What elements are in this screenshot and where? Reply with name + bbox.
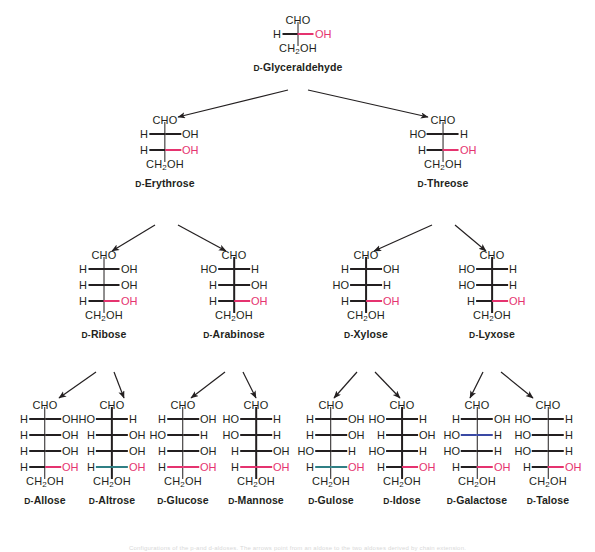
carbon-backbone: HOHHOH bbox=[418, 126, 469, 158]
carbon-backbone: HOHHOHHOHHOH bbox=[157, 411, 209, 475]
substituent-left: H bbox=[158, 443, 179, 459]
primary-alcohol-group: CH2OH bbox=[82, 309, 127, 323]
substituent-left: H bbox=[377, 427, 398, 443]
substituent-right: OH bbox=[552, 459, 582, 475]
substituent-right: OH bbox=[260, 459, 290, 475]
substituent-left: H bbox=[79, 277, 100, 293]
molecule-label-d-glyceraldehyde: D-Glyceraldehyde bbox=[254, 61, 343, 73]
carbon-backbone: HOHHOHHOHHOH bbox=[24, 411, 66, 475]
stereocenter-row: HOH bbox=[418, 142, 469, 158]
figure-caption: Configurations of the p-and d-aldoses. T… bbox=[0, 545, 595, 551]
substituent-left: HO bbox=[459, 261, 489, 277]
substituent-left: HO bbox=[201, 261, 231, 277]
stereo-prefix: D- bbox=[344, 330, 353, 340]
molecule-name-stem: Xylose bbox=[353, 328, 387, 340]
primary-alcohol-group: CH2OH bbox=[89, 475, 135, 489]
primary-alcohol-group: CH2OH bbox=[24, 475, 66, 489]
substituent-left: HO bbox=[444, 443, 474, 459]
substituent-right: OH bbox=[370, 293, 400, 309]
stereo-prefix: D- bbox=[24, 496, 33, 506]
substituent-right: H bbox=[552, 411, 573, 427]
substituent-left: H bbox=[158, 411, 179, 427]
substituent-left: H bbox=[452, 459, 473, 475]
stereocenter-row: HOH bbox=[228, 443, 284, 459]
stereocenter-row: HOH bbox=[447, 459, 507, 475]
molecule-name-stem: Glyceraldehyde bbox=[263, 61, 343, 73]
stereocenter-row: HOH bbox=[157, 443, 209, 459]
carbon-backbone: HOH bbox=[254, 26, 343, 42]
substituent-left: HO bbox=[333, 277, 363, 293]
stereo-prefix: D- bbox=[527, 496, 536, 506]
carbon-backbone: HOHHOHHOHHOH bbox=[383, 411, 421, 475]
arrow-d-threose-to-d-lyxose bbox=[455, 225, 486, 251]
primary-alcohol-group: CH2OH bbox=[228, 475, 284, 489]
molecule-d-gulose: CHOHOHHOHHOHHOHCH2OHD-Gulose bbox=[308, 399, 354, 506]
substituent-left: HO bbox=[515, 427, 545, 443]
molecule-label-d-allose: D-Allose bbox=[24, 494, 66, 506]
molecule-name-stem: Galactose bbox=[456, 494, 507, 506]
substituent-right: OH bbox=[187, 459, 217, 475]
substituent-right: OH bbox=[116, 443, 146, 459]
substituent-right: OH bbox=[496, 293, 526, 309]
stereocenter-row: HOH bbox=[447, 427, 507, 443]
molecule-name-stem: Idose bbox=[393, 494, 421, 506]
stereocenter-row: HOH bbox=[203, 277, 265, 293]
substituent-right: OH bbox=[116, 459, 146, 475]
arrow-d-xylose-to-d-idose bbox=[375, 372, 400, 398]
substituent-right: OH bbox=[335, 411, 365, 427]
stereo-prefix: D- bbox=[383, 496, 392, 506]
substituent-right: OH bbox=[447, 142, 477, 158]
molecule-label-d-lyxose: D-Lyxose bbox=[469, 328, 515, 340]
molecule-name-stem: Arabinose bbox=[213, 328, 265, 340]
substituent-right: OH bbox=[49, 443, 79, 459]
molecule-d-idose: CHOHOHHOHHOHHOHCH2OHD-Idose bbox=[383, 399, 421, 506]
stereo-prefix: D- bbox=[135, 179, 144, 189]
arrow-d-threose-to-d-xylose bbox=[374, 225, 432, 251]
stereocenter-row: HOH bbox=[203, 261, 265, 277]
stereocenter-row: HOH bbox=[527, 427, 569, 443]
molecule-label-d-arabinose: D-Arabinose bbox=[203, 328, 265, 340]
substituent-right: H bbox=[496, 277, 517, 293]
substituent-left: H bbox=[158, 459, 179, 475]
substituent-left: H bbox=[452, 411, 473, 427]
molecule-name-stem: Talose bbox=[536, 494, 569, 506]
carbon-backbone: HOHHOHHOH bbox=[203, 261, 265, 309]
substituent-left: H bbox=[87, 443, 108, 459]
molecule-d-glyceraldehyde: CHOHOHCH2OHD-Glyceraldehyde bbox=[254, 14, 343, 73]
substituent-right: OH bbox=[302, 26, 332, 42]
substituent-right: OH bbox=[406, 427, 436, 443]
stereocenter-row: HOH bbox=[135, 142, 194, 158]
substituent-left: H bbox=[523, 459, 544, 475]
primary-alcohol-group: CH2OH bbox=[135, 158, 194, 172]
molecule-d-lyxose: CHOHOHHOHHOHCH2OHD-Lyxose bbox=[469, 249, 515, 340]
primary-alcohol-group: CH2OH bbox=[447, 475, 507, 489]
stereocenter-row: HOH bbox=[89, 443, 135, 459]
substituent-left: H bbox=[231, 459, 252, 475]
substituent-right: OH bbox=[481, 459, 511, 475]
substituent-right: H bbox=[260, 427, 281, 443]
arrow-d-xylose-to-d-gulose bbox=[334, 372, 357, 398]
substituent-left: H bbox=[140, 142, 161, 158]
substituent-right: OH bbox=[238, 277, 268, 293]
primary-alcohol-group: CH2OH bbox=[157, 475, 209, 489]
substituent-left: H bbox=[306, 411, 327, 427]
stereo-prefix: D- bbox=[447, 496, 456, 506]
substituent-left: HO bbox=[298, 443, 328, 459]
substituent-left: H bbox=[20, 411, 41, 427]
arrow-d-lyxose-to-d-galactose bbox=[470, 372, 483, 398]
stereocenter-row: HOH bbox=[447, 443, 507, 459]
stereocenter-row: HOH bbox=[228, 459, 284, 475]
substituent-right: OH bbox=[169, 126, 199, 142]
substituent-right: H bbox=[187, 427, 208, 443]
carbon-backbone: HOHHOHHOHHOH bbox=[228, 411, 284, 475]
stereocenter-row: HOH bbox=[82, 261, 127, 277]
molecule-d-galactose: CHOHOHHOHHOHHOHCH2OHD-Galactose bbox=[447, 399, 507, 506]
stereocenter-row: HOH bbox=[308, 411, 354, 427]
substituent-right: OH bbox=[49, 427, 79, 443]
arrow-d-arabinose-to-d-glucose bbox=[191, 372, 225, 398]
substituent-right: H bbox=[335, 443, 356, 459]
substituent-right: OH bbox=[108, 277, 138, 293]
stereocenter-row: HOH bbox=[469, 261, 515, 277]
stereocenter-row: HOH bbox=[82, 277, 127, 293]
substituent-left: H bbox=[20, 443, 41, 459]
